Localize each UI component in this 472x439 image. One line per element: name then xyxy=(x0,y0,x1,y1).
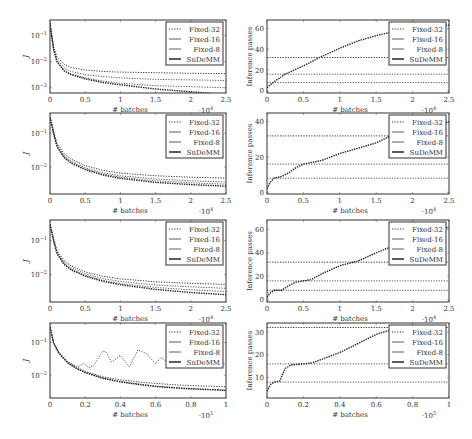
x-tick-label: 2 xyxy=(189,197,193,205)
chart-grid: 00.511.522.510−110−210−3Fixed-32Fixed-16… xyxy=(0,0,472,439)
legend-label: SuDeMM xyxy=(187,149,220,157)
y-tick-label: 20 xyxy=(255,273,264,281)
legend-label: Fixed-16 xyxy=(412,236,443,244)
legend: Fixed-32Fixed-16Fixed-8SuDeMM xyxy=(166,222,223,265)
x-tick-label: 0.2 xyxy=(298,401,309,409)
legend-label: Fixed-8 xyxy=(417,46,444,54)
legend-label: Fixed-32 xyxy=(189,329,220,337)
chart-row3-right: 00.511.522.50204060Fixed-32Fixed-16Fixed… xyxy=(246,220,455,324)
legend-label: Fixed-32 xyxy=(412,226,443,234)
tick-label: ·105 xyxy=(422,410,436,420)
legend-label: SuDeMM xyxy=(410,149,443,157)
y-tick-label: 20 xyxy=(255,154,264,162)
legend-label: Fixed-16 xyxy=(412,129,443,137)
legend: Fixed-32Fixed-16Fixed-8SuDeMM xyxy=(389,325,446,368)
legend-label: Fixed-32 xyxy=(189,226,220,234)
x-tick-label: 1 xyxy=(338,96,342,104)
y-tick-label: 20 xyxy=(255,67,264,75)
x-tick-label: 1.5 xyxy=(150,305,161,313)
x-tick-label: 1.5 xyxy=(371,305,382,313)
x-tick-label: 1 xyxy=(338,305,342,313)
legend: Fixed-32Fixed-16Fixed-8SuDeMM xyxy=(166,22,223,65)
x-tick-label: 0.5 xyxy=(298,96,309,104)
x-tick-label: 0 xyxy=(265,305,269,313)
x-tick-label: 0 xyxy=(265,401,269,409)
x-axis-label: # batches xyxy=(332,207,368,215)
x-axis-label: # batches xyxy=(332,315,368,323)
x-axis-label: # batches xyxy=(112,207,148,215)
y-axis-label: Inference passes xyxy=(246,26,254,86)
y-tick-label: 30 xyxy=(255,329,264,337)
x-tick-label: 0.5 xyxy=(298,305,309,313)
legend: Fixed-32Fixed-16Fixed-8SuDeMM xyxy=(166,115,223,158)
y-axis-label: J xyxy=(21,358,30,364)
legend: Fixed-32Fixed-16Fixed-8SuDeMM xyxy=(389,115,446,158)
chart-row2-left: 00.511.522.510−110−2Fixed-32Fixed-16Fixe… xyxy=(21,113,232,216)
x-tick-label: 0.4 xyxy=(115,401,127,409)
tick-label: 10−2 xyxy=(31,162,47,172)
x-tick-label: 1 xyxy=(118,197,122,205)
tick-label: 10−3 xyxy=(31,82,47,92)
legend: Fixed-32Fixed-16Fixed-8SuDeMM xyxy=(389,222,446,265)
y-axis-label: Inference passes xyxy=(246,330,254,390)
x-tick-label: 1 xyxy=(118,305,122,313)
y-tick-label: 40 xyxy=(255,249,264,257)
legend-label: Fixed-8 xyxy=(194,349,221,357)
x-tick-label: 2.5 xyxy=(220,197,231,205)
x-tick-label: 1 xyxy=(118,96,122,104)
tick-label: 10−1 xyxy=(31,235,47,245)
tick-label: ·104 xyxy=(199,206,213,216)
y-tick-label: 10 xyxy=(255,374,264,382)
y-tick-label: 40 xyxy=(255,46,264,54)
tick-label: ·104 xyxy=(422,206,436,216)
x-tick-label: 1 xyxy=(224,401,228,409)
x-tick-label: 0 xyxy=(48,197,52,205)
legend: Fixed-32Fixed-16Fixed-8SuDeMM xyxy=(389,22,446,65)
tick-label: 10−1 xyxy=(31,30,47,40)
x-tick-label: 0.5 xyxy=(80,197,91,205)
y-axis-label: Inference passes xyxy=(246,231,254,291)
legend-label: SuDeMM xyxy=(187,256,220,264)
x-tick-label: 1.5 xyxy=(371,197,382,205)
legend-label: Fixed-8 xyxy=(194,46,221,54)
chart-row1-left: 00.511.522.510−110−210−3Fixed-32Fixed-16… xyxy=(21,20,232,115)
y-tick-label: 0 xyxy=(260,189,264,197)
x-tick-label: 2 xyxy=(410,96,414,104)
legend-label: Fixed-32 xyxy=(412,26,443,34)
legend-label: SuDeMM xyxy=(410,56,443,64)
x-tick-label: 0 xyxy=(265,96,269,104)
x-axis-label: # batches xyxy=(112,411,148,419)
tick-label: ·105 xyxy=(199,410,213,420)
chart-row1-right: 00.511.522.50204060Fixed-32Fixed-16Fixed… xyxy=(246,20,455,115)
legend-label: Fixed-32 xyxy=(189,119,220,127)
legend-label: Fixed-8 xyxy=(417,349,444,357)
figure: 00.511.522.510−110−210−3Fixed-32Fixed-16… xyxy=(0,0,472,439)
x-tick-label: 2.5 xyxy=(443,197,454,205)
legend-label: Fixed-8 xyxy=(194,139,221,147)
legend-label: Fixed-8 xyxy=(194,246,221,254)
legend-label: Fixed-16 xyxy=(189,129,220,137)
y-tick-label: 0 xyxy=(260,296,264,304)
legend-label: Fixed-16 xyxy=(189,36,220,44)
tick-label: 10−2 xyxy=(31,56,47,66)
tick-label: 10−1 xyxy=(31,128,47,138)
y-tick-label: 60 xyxy=(255,25,264,33)
x-tick-label: 1.5 xyxy=(150,96,161,104)
x-tick-label: 0 xyxy=(265,197,269,205)
y-axis-label: J xyxy=(21,151,30,157)
x-tick-label: 0 xyxy=(48,96,52,104)
x-tick-label: 0.4 xyxy=(334,401,346,409)
x-tick-label: 0.8 xyxy=(407,401,418,409)
x-tick-label: 0.5 xyxy=(80,305,91,313)
legend-label: Fixed-16 xyxy=(189,339,220,347)
x-tick-label: 0.5 xyxy=(298,197,309,205)
x-tick-label: 0.6 xyxy=(150,401,162,409)
x-axis-label: # batches xyxy=(112,315,148,323)
x-axis-label: # batches xyxy=(332,411,368,419)
legend-label: Fixed-8 xyxy=(417,246,444,254)
tick-label: 10−1 xyxy=(31,337,47,347)
legend: Fixed-32Fixed-16Fixed-8SuDeMM xyxy=(166,325,223,368)
y-axis-label: J xyxy=(21,54,30,60)
legend-label: SuDeMM xyxy=(410,256,443,264)
x-tick-label: 2.5 xyxy=(220,96,231,104)
